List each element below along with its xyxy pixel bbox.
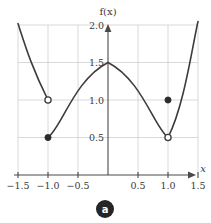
- y-tick-label: 1.0: [89, 95, 104, 106]
- x-tick-label: 0.5: [130, 180, 145, 191]
- y-tick-labels: 0.5 1.0 1.5 2.0: [89, 20, 104, 144]
- x-axis-label: x: [200, 163, 206, 174]
- y-axis: [105, 24, 112, 175]
- curve-right-branch: [168, 22, 198, 138]
- figure-panel: −1.5 −1.0 −0.5 0.5 1.0 1.5 0.5 1.0 1.5 2…: [0, 0, 211, 223]
- y-axis-label: f(x): [99, 6, 116, 17]
- panel-label-badge-text: a: [102, 204, 109, 215]
- y-tick-label: 0.5: [89, 132, 104, 143]
- x-tick-labels: −1.5 −1.0 −0.5 0.5 1.0 1.5: [6, 180, 205, 191]
- x-tick-label: −1.5: [6, 180, 29, 191]
- filled-dot-marker-left: [45, 134, 51, 140]
- open-circle-marker-left: [45, 97, 51, 103]
- x-tick-label: 1.5: [190, 180, 205, 191]
- function-graph: −1.5 −1.0 −0.5 0.5 1.0 1.5 0.5 1.0 1.5 2…: [0, 0, 211, 223]
- curve-left-branch: [18, 24, 48, 101]
- panel-label-badge: a: [96, 200, 114, 218]
- x-tick-label: −1.0: [36, 180, 59, 191]
- x-tick-label: −0.5: [66, 180, 89, 191]
- y-tick-label: 2.0: [89, 20, 104, 31]
- filled-dot-marker-right: [165, 97, 171, 103]
- x-tick-label: 1.0: [160, 180, 175, 191]
- x-axis: [14, 172, 198, 179]
- open-circle-marker-right: [165, 134, 171, 140]
